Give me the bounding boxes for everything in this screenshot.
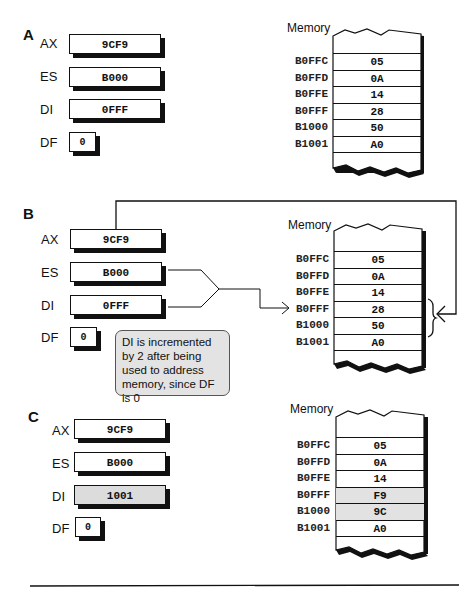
memory-cell: 50 xyxy=(333,119,421,136)
ax-label: AX xyxy=(41,232,67,247)
es-label: ES xyxy=(40,69,66,84)
memory-cell-highlighted: F9 xyxy=(336,487,424,504)
memory-cell: A0 xyxy=(334,334,422,351)
memory-title: Memory xyxy=(288,218,331,232)
memory-cell: 05 xyxy=(336,437,424,454)
bottom-rule xyxy=(30,585,459,586)
memory-cell: A0 xyxy=(333,136,421,153)
memory-row-divider xyxy=(333,152,421,153)
memory-address: B0FFF xyxy=(272,103,328,120)
es-register: B000 xyxy=(74,452,166,472)
df-register: 0 xyxy=(70,327,97,347)
memory-address: B1001 xyxy=(272,136,328,153)
memory-address: B0FFF xyxy=(273,301,329,318)
df-register: 0 xyxy=(75,517,101,537)
memory-address: B0FFE xyxy=(273,284,329,301)
df-label: DF xyxy=(40,135,66,150)
memory-row-divider xyxy=(336,536,424,537)
memory-address: B0FFC xyxy=(272,53,328,70)
callout-note: DI is incremented by 2 after being used … xyxy=(115,330,230,396)
memory-cell: 28 xyxy=(333,103,421,120)
ax-register: 9CF9 xyxy=(69,34,161,54)
memory-address: B0FFD xyxy=(273,268,329,285)
memory-address: B0FFC xyxy=(273,251,329,268)
memory-address: B0FFF xyxy=(274,487,330,504)
panel-letter: C xyxy=(28,408,39,425)
memory-cell: 50 xyxy=(334,317,422,334)
memory-address: B1001 xyxy=(274,520,330,537)
memory-title: Memory xyxy=(290,402,333,416)
df-label: DF xyxy=(41,330,67,345)
memory-cell: 14 xyxy=(333,86,421,103)
di-register-highlighted: 1001 xyxy=(74,485,166,505)
memory-cell-highlighted: 9C xyxy=(336,503,424,520)
memory-address: B0FFD xyxy=(272,70,328,87)
brace-icon xyxy=(428,299,436,337)
memory-address: B1000 xyxy=(272,119,328,136)
memory-address: B0FFE xyxy=(272,86,328,103)
memory-cell: 14 xyxy=(336,470,424,487)
memory-address: B0FFE xyxy=(274,470,330,487)
memory-cell: 14 xyxy=(334,284,422,301)
es-line xyxy=(168,270,219,289)
memory-cell: 0A xyxy=(333,70,421,87)
memory-address: B1000 xyxy=(273,317,329,334)
memory-cell: 05 xyxy=(333,53,421,70)
memory-row-divider xyxy=(334,350,422,351)
ax-register: 9CF9 xyxy=(74,419,166,439)
memory-address: B0FFD xyxy=(274,454,330,471)
memory-address: B1001 xyxy=(273,334,329,351)
es-label: ES xyxy=(41,265,67,280)
memory-title: Memory xyxy=(287,21,330,35)
di-label: DI xyxy=(41,298,67,313)
di-register: 0FFF xyxy=(70,295,162,315)
ax-register: 9CF9 xyxy=(70,229,162,249)
memory-address: B1000 xyxy=(274,503,330,520)
df-register: 0 xyxy=(69,132,96,152)
memory-cell: 0A xyxy=(336,454,424,471)
memory-cell: 05 xyxy=(334,251,422,268)
memory-address: B0FFC xyxy=(274,437,330,454)
di-line xyxy=(168,289,219,307)
es-register: B000 xyxy=(70,262,162,282)
ax-label: AX xyxy=(40,36,66,51)
di-label: DI xyxy=(40,102,66,117)
panel-letter: B xyxy=(23,205,34,222)
memory-cell: 0A xyxy=(334,268,422,285)
memory-cell: A0 xyxy=(336,520,424,537)
memory-cell: 28 xyxy=(334,301,422,318)
panel-letter: A xyxy=(23,26,34,43)
di-register: 0FFF xyxy=(69,99,161,119)
es-register: B000 xyxy=(69,67,161,87)
